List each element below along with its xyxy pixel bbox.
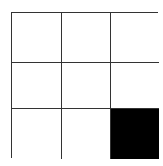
grid-cell-r2-c2[interactable]	[111, 109, 159, 159]
grid-cell-r1-c2[interactable]	[111, 63, 159, 109]
grid-cell-r2-c1[interactable]	[62, 109, 111, 159]
grid-cell-r0-c2[interactable]	[111, 13, 159, 63]
grid-cell-r1-c0[interactable]	[12, 63, 62, 109]
grid-cell-r2-c0[interactable]	[12, 109, 62, 159]
grid-cell-r1-c1[interactable]	[62, 63, 111, 109]
grid-cell-r0-c0[interactable]	[12, 13, 62, 63]
grid-cell-r0-c1[interactable]	[62, 13, 111, 63]
grid-board	[11, 12, 158, 158]
